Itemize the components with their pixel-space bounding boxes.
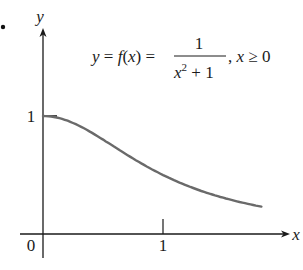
origin-label: 0 xyxy=(27,236,36,255)
y-axis-label: y xyxy=(34,7,44,26)
bullet-icon xyxy=(1,25,5,29)
function-curve xyxy=(43,116,261,207)
formula-denominator: x2 + 1 xyxy=(173,61,214,82)
y-tick-label-1: 1 xyxy=(27,107,36,126)
chart-canvas: y x 0 1 1 y = f(x) = 1 x2 + 1 , x ≥ 0 xyxy=(0,0,303,270)
formula-lhs: y = f(x) = xyxy=(90,47,155,66)
formula: y = f(x) = 1 x2 + 1 , x ≥ 0 xyxy=(90,34,270,82)
formula-condition: , x ≥ 0 xyxy=(228,47,270,66)
x-axis-label: x xyxy=(291,225,300,244)
formula-numerator: 1 xyxy=(195,34,204,53)
x-tick-label-1: 1 xyxy=(159,236,168,255)
